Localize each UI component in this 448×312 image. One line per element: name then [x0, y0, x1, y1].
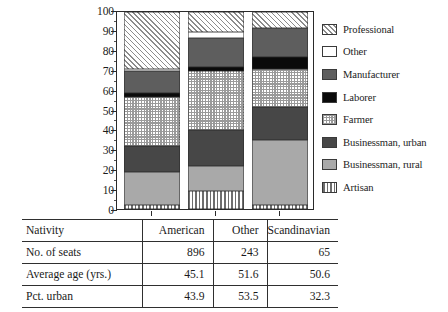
- legend-swatch-icon: [322, 69, 337, 80]
- legend-item-manufacturer[interactable]: Manufacturer: [322, 63, 446, 86]
- legend-item-label: Laborer: [343, 92, 376, 103]
- bar-segment-businessman-urban[interactable]: [124, 146, 180, 172]
- table-cell: 243: [213, 242, 267, 264]
- table-header-scandinavian: Scandinavian: [267, 220, 338, 242]
- bar-segment-farmer[interactable]: [124, 97, 180, 146]
- bar-segment-businessman-rural[interactable]: [188, 166, 244, 192]
- bar-segment-farmer[interactable]: [188, 71, 244, 130]
- table-cell: 43.9: [143, 286, 213, 308]
- table-row-label: No. of seats: [22, 242, 143, 264]
- table-row-label: Pct. urban: [22, 286, 143, 308]
- table-header-row-label: Nativity: [22, 220, 143, 242]
- bar-segment-manufacturer[interactable]: [188, 38, 244, 68]
- legend-item-label: Artisan: [343, 182, 374, 193]
- legend-swatch-icon: [322, 114, 337, 125]
- x-tick-mark: [279, 211, 280, 216]
- legend-swatch-icon: [322, 46, 337, 57]
- bar-segment-artisan[interactable]: [252, 205, 308, 209]
- figure-container: 0102030405060708090100 ProfessionalOther…: [0, 0, 448, 312]
- legend-item-label: Other: [343, 46, 367, 57]
- bar-segment-laborer[interactable]: [252, 57, 308, 69]
- bar-segment-artisan[interactable]: [188, 191, 244, 209]
- table-cell: 53.5: [213, 286, 267, 308]
- table-cell: 51.6: [213, 264, 267, 286]
- legend-item-label: Farmer: [343, 114, 373, 125]
- bar-segment-artisan[interactable]: [124, 205, 180, 209]
- legend-item-farmer[interactable]: Farmer: [322, 108, 446, 131]
- legend-item-laborer[interactable]: Laborer: [322, 86, 446, 109]
- legend-swatch-icon: [322, 137, 337, 148]
- bar-segment-manufacturer[interactable]: [124, 71, 180, 93]
- table-header-other: Other: [213, 220, 267, 242]
- bar-other[interactable]: [188, 12, 244, 209]
- x-tick-mark: [151, 211, 152, 216]
- bar-scandinavian[interactable]: [252, 12, 308, 209]
- table-cell: 50.6: [267, 264, 338, 286]
- table-head: Nativity American Other Scandinavian: [22, 220, 338, 242]
- legend-item-other[interactable]: Other: [322, 41, 446, 64]
- legend-item-professional[interactable]: Professional: [322, 18, 446, 41]
- table-row-label: Average age (yrs.): [22, 264, 143, 286]
- legend-swatch-icon: [322, 159, 337, 170]
- bar-segment-professional[interactable]: [124, 12, 180, 69]
- plot-area: [116, 11, 314, 210]
- table-body: No. of seats89624365Average age (yrs.)45…: [22, 242, 338, 308]
- bar-american[interactable]: [124, 12, 180, 209]
- legend-item-label: Manufacturer: [343, 69, 399, 80]
- table-cell: 896: [143, 242, 213, 264]
- bar-segment-businessman-rural[interactable]: [124, 172, 180, 205]
- stacked-bar-chart: 0102030405060708090100 ProfessionalOther…: [0, 0, 448, 218]
- bar-segment-businessman-urban[interactable]: [188, 130, 244, 165]
- legend-item-label: Businessman, rural: [343, 159, 422, 170]
- bar-segment-professional[interactable]: [188, 12, 244, 32]
- legend-swatch-icon: [322, 24, 337, 35]
- legend-item-label: Businessman, urban: [343, 137, 427, 148]
- chart-legend: ProfessionalOtherManufacturerLaborerFarm…: [322, 18, 446, 199]
- bar-segment-businessman-rural[interactable]: [252, 140, 308, 205]
- nativity-table: Nativity American Other Scandinavian No.…: [22, 219, 338, 307]
- table-row: Average age (yrs.)45.151.650.6: [22, 264, 338, 286]
- table-header-american: American: [143, 220, 213, 242]
- bar-segment-farmer[interactable]: [252, 69, 308, 106]
- table-cell: 45.1: [143, 264, 213, 286]
- legend-item-label: Professional: [343, 24, 394, 35]
- legend-item-artisan[interactable]: Artisan: [322, 176, 446, 199]
- table-row: No. of seats89624365: [22, 242, 338, 264]
- bar-segment-manufacturer[interactable]: [252, 28, 308, 58]
- table-cell: 32.3: [267, 286, 338, 308]
- table-cell: 65: [267, 242, 338, 264]
- legend-swatch-icon: [322, 92, 337, 103]
- bar-segment-professional[interactable]: [252, 12, 308, 28]
- legend-item-businessman-rural[interactable]: Businessman, rural: [322, 154, 446, 177]
- x-tick-mark: [215, 211, 216, 216]
- table-row: Pct. urban43.953.532.3: [22, 286, 338, 308]
- bar-segment-businessman-urban[interactable]: [252, 107, 308, 140]
- legend-item-businessman-urban[interactable]: Businessman, urban: [322, 131, 446, 154]
- table: Nativity American Other Scandinavian No.…: [22, 219, 338, 308]
- table-header-row: Nativity American Other Scandinavian: [22, 220, 338, 242]
- legend-swatch-icon: [322, 182, 337, 193]
